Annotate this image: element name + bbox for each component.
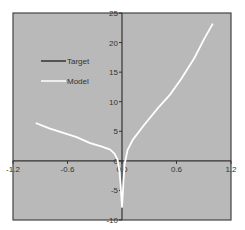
y-tick-label: 5: [114, 127, 119, 136]
y-tick-label: 25: [109, 9, 118, 18]
x-tick-label: -0.6: [61, 165, 75, 174]
y-tick-label: -5: [111, 186, 119, 195]
x-tick-label: 1.2: [225, 165, 237, 174]
legend-label-model: Model: [67, 77, 89, 86]
y-tick-label: 20: [109, 39, 118, 48]
y-tick-label: 10: [109, 98, 118, 107]
x-tick-label: 0.6: [171, 165, 183, 174]
x-tick-label: -1.2: [6, 165, 20, 174]
y-tick-label: 15: [109, 68, 118, 77]
line-chart: -1.2-0.60.00.61.2 2520151050-5-10 Target…: [0, 0, 245, 230]
legend-label-target: Target: [67, 57, 90, 66]
y-tick-label: -10: [106, 216, 118, 225]
